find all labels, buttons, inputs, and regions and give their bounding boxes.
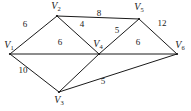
edge-weight-v1-v2: 6: [23, 20, 28, 29]
graph-vertex-node: [9, 53, 11, 55]
edge-weight-v2-v5: 8: [97, 9, 102, 18]
vertex-label-subscript: 6: [181, 44, 184, 51]
edge-weight-v4-v6: 6: [136, 38, 141, 47]
graph-edge: [59, 54, 177, 92]
edge-weight-v5-v6: 12: [158, 19, 167, 28]
edge-weight-v3-v6: 5: [101, 77, 106, 86]
edge-weight-v4-v5: 5: [115, 26, 120, 35]
graph-edge: [10, 16, 57, 54]
vertex-label-v1: V1: [4, 40, 14, 51]
vertex-label-subscript: 5: [140, 6, 143, 13]
weighted-graph-diagram: V1V2V3V4V5V6 66108456125: [0, 0, 191, 111]
graph-vertex-node: [58, 91, 60, 93]
edge-weight-v1-v3: 10: [19, 66, 28, 75]
graph-vertex-node: [176, 53, 178, 55]
edge-weight-v1-v4: 6: [58, 38, 63, 47]
vertex-label-v5: V5: [134, 2, 144, 13]
vertex-label-subscript: 4: [99, 43, 102, 50]
edge-group: [10, 16, 177, 92]
edge-weight-v2-v4: 4: [80, 20, 85, 29]
vertex-label-v4: V4: [93, 39, 103, 50]
graph-vertex-node: [56, 15, 58, 17]
vertex-label-subscript: 2: [57, 5, 60, 12]
vertex-label-subscript: 1: [10, 44, 13, 51]
graph-edge: [59, 54, 99, 92]
graph-edge: [10, 54, 59, 92]
vertex-label-subscript: 3: [60, 99, 63, 106]
graph-vertex-node: [138, 18, 140, 20]
graph-vertex-node: [98, 53, 100, 55]
vertex-label-v6: V6: [175, 40, 185, 51]
vertex-label-v2: V2: [51, 1, 61, 12]
vertex-label-v3: V3: [54, 95, 64, 106]
